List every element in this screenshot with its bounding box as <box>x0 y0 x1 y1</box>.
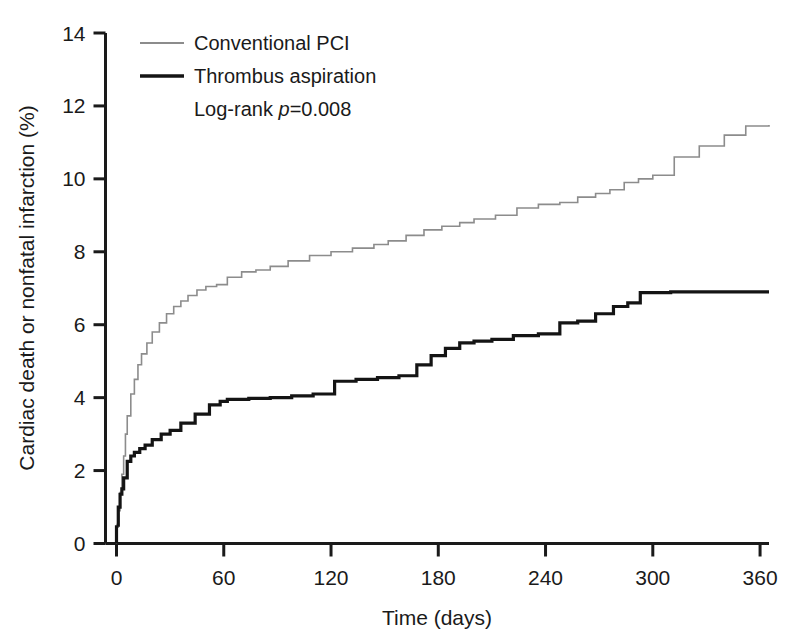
y-tick-label-10: 10 <box>62 167 85 190</box>
y-tick-label-0: 0 <box>74 532 86 555</box>
log-rank-p-symbol: p <box>278 98 290 120</box>
y-tick-label-4: 4 <box>74 386 86 409</box>
x-axis-title: Time (days) <box>382 606 492 629</box>
x-tick-label-240: 240 <box>528 566 563 589</box>
log-rank-statistic: Log-rank p=0.008 <box>194 98 351 120</box>
legend-label-thrombus-aspiration: Thrombus aspiration <box>194 65 376 87</box>
data-series-group <box>117 125 770 544</box>
log-rank-value: =0.008 <box>290 98 352 120</box>
x-tick-label-300: 300 <box>635 566 670 589</box>
x-axis-tick-labels: 060120180240300360 <box>111 566 778 589</box>
y-tick-label-6: 6 <box>74 313 86 336</box>
log-rank-prefix: Log-rank <box>194 98 279 120</box>
series-line-conventional-pci <box>117 125 770 527</box>
y-axis-title: Cardiac death or nonfatal infarction (%) <box>15 105 38 470</box>
kaplan-meier-figure: 02468101214 060120180240300360 Time (day… <box>0 0 812 641</box>
x-axis-ticks <box>117 544 761 557</box>
x-tick-label-120: 120 <box>313 566 348 589</box>
y-tick-label-2: 2 <box>74 459 86 482</box>
x-tick-label-360: 360 <box>743 566 778 589</box>
x-tick-label-60: 60 <box>212 566 235 589</box>
legend-label-conventional-pci: Conventional PCI <box>194 32 350 54</box>
x-tick-label-180: 180 <box>421 566 456 589</box>
y-axis-tick-labels: 02468101214 <box>62 22 86 556</box>
chart-legend: Conventional PCI Thrombus aspiration Log… <box>140 32 376 120</box>
series-line-thrombus-aspiration <box>117 292 770 525</box>
chart-canvas: 02468101214 060120180240300360 Time (day… <box>0 0 812 641</box>
x-tick-label-0: 0 <box>111 566 123 589</box>
y-tick-label-14: 14 <box>62 22 86 45</box>
y-tick-label-12: 12 <box>62 94 85 117</box>
y-axis-ticks <box>94 33 106 544</box>
y-tick-label-8: 8 <box>74 240 86 263</box>
